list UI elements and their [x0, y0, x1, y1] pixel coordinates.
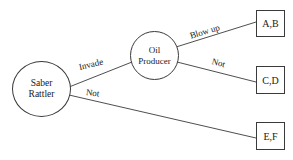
node-saber-rattler[interactable]: Saber Rattler	[12, 61, 71, 117]
outcome-box-cd[interactable]: C,D	[256, 66, 285, 94]
diagram-canvas: Saber Rattler Oil Producer A,B C,D E,F I…	[0, 0, 293, 160]
node-oil-producer-label-line1: Oil	[149, 45, 161, 55]
outcome-box-ab-label: A,B	[262, 18, 278, 29]
node-saber-rattler-label-line1: Saber	[31, 78, 53, 89]
node-oil-producer-label-line2: Producer	[138, 56, 171, 66]
edge-line-not-bottom	[69, 95, 256, 138]
outcome-box-cd-label: C,D	[262, 75, 278, 86]
outcome-box-ef[interactable]: E,F	[256, 122, 285, 150]
outcome-box-ef-label: E,F	[263, 131, 277, 142]
node-saber-rattler-label-line2: Rattler	[29, 89, 55, 100]
node-oil-producer[interactable]: Oil Producer	[130, 31, 179, 80]
edge-label-not-bottom: Not	[85, 87, 100, 99]
outcome-box-ab[interactable]: A,B	[256, 10, 285, 37]
